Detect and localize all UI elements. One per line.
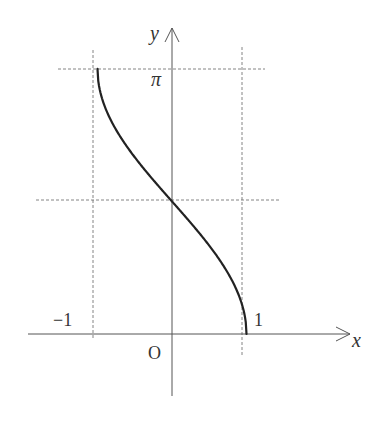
tick-label-pos1: 1 <box>254 310 263 330</box>
tick-label-neg1: −1 <box>53 310 72 330</box>
origin-label: O <box>148 343 161 363</box>
axes <box>28 28 350 396</box>
arccos-graph: y x O −1 1 π <box>0 0 381 424</box>
y-axis-label: y <box>148 22 159 45</box>
tick-label-pi: π <box>151 68 162 90</box>
x-axis-label: x <box>351 329 361 351</box>
